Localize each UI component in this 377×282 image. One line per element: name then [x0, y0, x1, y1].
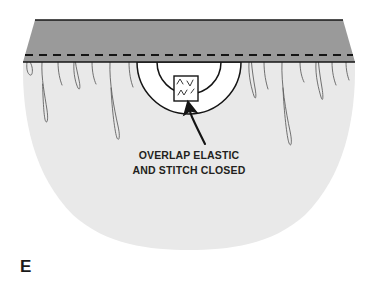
callout-line-1: OVERLAP ELASTIC [139, 149, 240, 161]
panel-letter: E [20, 257, 31, 276]
overlap-patch-group [174, 76, 198, 101]
overlap-elastic-patch [174, 76, 198, 101]
callout-line-2: AND STITCH CLOSED [133, 164, 246, 176]
illustration-canvas: OVERLAP ELASTIC AND STITCH CLOSED E [0, 0, 377, 282]
waistband-group [23, 20, 355, 62]
illustration-figure: OVERLAP ELASTIC AND STITCH CLOSED E [0, 0, 377, 282]
